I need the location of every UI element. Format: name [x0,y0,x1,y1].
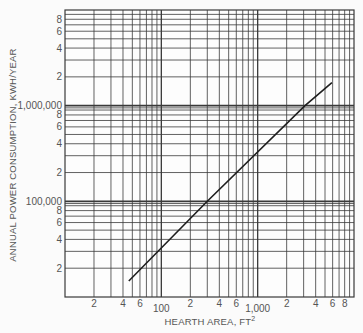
y-tick-label: 4 [56,43,62,54]
y-tick-label: 6 [56,121,62,132]
x-tick-label: 100 [153,303,170,314]
x-axis-ticks: 2461002461,0002468 [91,298,348,314]
y-tick-label: 8 [56,14,62,25]
y-axis-label: ANNUAL POWER CONSUMPTION, KWH/YEAR [7,48,18,261]
x-tick-label: 2 [91,298,97,309]
x-tick-label: 6 [234,298,240,309]
grid-lines [65,10,354,297]
y-tick-label: 100,000 [26,196,63,207]
x-tick-label: 6 [330,298,336,309]
x-tick-label: 4 [120,298,126,309]
y-axis-ticks: 2468100,00024681,000,0002468 [18,14,63,274]
x-axis-label: HEARTH AREA, FT2 [165,315,256,327]
y-tick-label: 6 [56,26,62,37]
y-tick-label: 2 [56,71,62,82]
x-tick-label: 2 [188,298,194,309]
y-tick-label: 4 [56,138,62,149]
x-tick-label: 4 [217,298,223,309]
x-tick-label: 2 [284,298,290,309]
y-tick-label: 6 [56,217,62,228]
x-tick-label: 1,000 [245,303,270,314]
y-tick-label: 2 [56,167,62,178]
x-tick-label: 4 [313,298,319,309]
x-tick-label: 6 [137,298,143,309]
chart: 2461002461,0002468 2468100,00024681,000,… [0,0,363,333]
x-tick-label: 8 [342,298,348,309]
y-tick-label: 4 [56,234,62,245]
y-tick-label: 2 [56,263,62,274]
y-tick-label: 1,000,000 [18,100,63,111]
